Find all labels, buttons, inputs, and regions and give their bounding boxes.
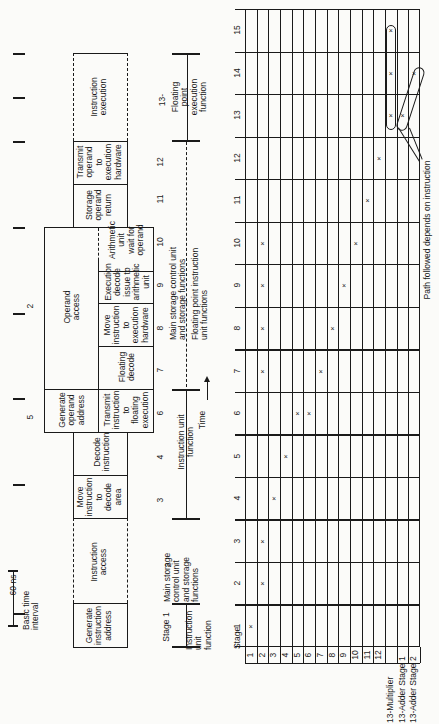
time-interval-label: 8 <box>233 321 243 335</box>
occupancy-mark: × <box>259 580 267 587</box>
pipeline-diagram: 2560 nsBasic time intervalGenerate instr… <box>0 0 439 724</box>
time-interval-label: 2 <box>233 576 243 590</box>
occupancy-mark: × <box>364 197 372 204</box>
text-generate-instruction-address: Generate instruction address <box>85 604 115 647</box>
text-storage-operand-return: Storage operand return <box>85 184 115 226</box>
grid-stage-line <box>373 9 374 663</box>
grid-time-line <box>235 392 420 393</box>
box-edge-dashed <box>127 53 128 141</box>
text-generate-operand-address: Generate operand address <box>58 389 88 431</box>
stage-row-label: 13-Multiplier <box>386 659 396 723</box>
grid-stage-line <box>397 9 398 663</box>
time-interval-label: 10 <box>233 236 243 250</box>
stage-row-label: 4 <box>281 648 291 662</box>
scale-caption: Basic time interval <box>22 570 42 630</box>
time-interval-label: 5 <box>233 449 243 463</box>
stage-number: 12 <box>156 156 166 168</box>
scale-label: 60 ns <box>9 570 19 600</box>
occupancy-mark: × <box>247 623 255 630</box>
stage-number: 7 <box>156 364 166 376</box>
box-edge-dashed <box>73 53 74 141</box>
occupancy-mark: × <box>259 240 267 247</box>
bracket-3-6 <box>186 389 187 519</box>
stage-row-label: 3 <box>269 648 279 662</box>
occupancy-mark: × <box>340 282 348 289</box>
time-interval-label: 6 <box>233 406 243 420</box>
text-move-to-execution: Move instruction to execution hardware <box>103 304 151 346</box>
grid-time-line <box>235 434 420 435</box>
occupancy-mark: × <box>294 410 302 417</box>
stage-row-label: 12 <box>374 648 384 662</box>
grid-stage-line <box>362 9 363 663</box>
grid-stage-line <box>327 9 328 663</box>
interval-number-2: 2 <box>26 296 36 316</box>
occupancy-mark: × <box>259 538 267 545</box>
stage-row-label: 9 <box>339 648 349 662</box>
occupancy-mark: × <box>259 282 267 289</box>
bracket-tick <box>172 646 200 648</box>
text-decode-instruction: Decode instruction <box>93 431 113 473</box>
occupancy-mark: × <box>259 325 267 332</box>
grid-time-line <box>235 307 420 308</box>
text-floating-decode: Floating decode <box>118 346 138 388</box>
time-interval-label: 7 <box>233 364 243 378</box>
stage-label-1: Stage 1 <box>162 607 172 647</box>
stage-row-label: 13-Adder Stage 1 <box>398 659 408 723</box>
stage-row-label: 8 <box>328 648 338 662</box>
occupancy-mark: × <box>375 155 383 162</box>
function-instruction-unit-1: Instruction unit function <box>185 600 215 650</box>
time-interval-label: 4 <box>233 491 243 505</box>
grid-time-line <box>235 519 420 520</box>
occupancy-mark: × <box>352 240 360 247</box>
time-interval-label: 11 <box>233 193 243 207</box>
stage-row-label: 13-Adder Stage 2 <box>409 659 419 723</box>
grid-stage-line <box>350 9 351 663</box>
grid-time-line <box>235 222 420 223</box>
stage-number: 8 <box>156 322 166 334</box>
stage-number: 11 <box>156 193 166 205</box>
grid-time-line <box>235 477 420 478</box>
path-annotation: Path followed depends on instruction <box>423 145 433 315</box>
function-floating-point-execution: Floating point execution function <box>171 67 211 127</box>
interval-tick <box>13 484 25 486</box>
occupancy-mark: × <box>259 368 267 375</box>
grid-stage-line <box>280 9 281 663</box>
grid-time-line <box>235 349 420 350</box>
grid-time-line <box>235 604 420 605</box>
interval-number-5: 5 <box>26 407 36 427</box>
text-transmit-operand: Transmit operand to execution hardware <box>76 141 124 183</box>
stage-number: 6 <box>156 407 166 419</box>
interval-tick <box>13 313 25 315</box>
grid-time-line <box>235 264 420 265</box>
bracket-tick <box>172 53 200 55</box>
text-operand-access: Operand access <box>63 277 83 337</box>
interval-tick <box>13 97 25 99</box>
stage-number: 13- <box>158 92 168 108</box>
function-main-storage-2: Main storage control unit and storage fu… <box>163 542 203 602</box>
text-instruction-access: Instruction access <box>90 532 110 592</box>
grid-stage-line <box>257 9 258 663</box>
grid-time-line <box>235 179 420 180</box>
grid-stage-line <box>245 9 246 663</box>
grid-time-line <box>235 137 420 138</box>
stage-row-label: 5 <box>293 648 303 662</box>
path-multiplier <box>386 25 396 130</box>
stage-row-label: 2 <box>258 648 268 662</box>
occupancy-mark: × <box>270 495 278 502</box>
stage-number: 9 <box>156 279 166 291</box>
occupancy-mark: × <box>305 410 313 417</box>
time-interval-label: 13 <box>233 108 243 122</box>
bracket-tick <box>172 389 200 391</box>
bracket-tick <box>172 518 200 520</box>
stage-header: Stage <box>233 626 243 650</box>
time-interval-label: 12 <box>233 151 243 165</box>
text-instruction-execution: Instruction execution <box>90 67 110 127</box>
box-edge-dashed <box>127 518 128 603</box>
stage-row-label: 11 <box>363 648 373 662</box>
grid-stage-line <box>303 9 304 663</box>
bracket-tick <box>172 140 200 142</box>
grid-stage-line <box>292 9 293 663</box>
grid-stage-line <box>268 9 269 663</box>
function-instruction-unit-3-6: Instruction unit function <box>177 397 197 487</box>
function-floating-point-instruction: Floating point instruction unit function… <box>191 220 211 340</box>
